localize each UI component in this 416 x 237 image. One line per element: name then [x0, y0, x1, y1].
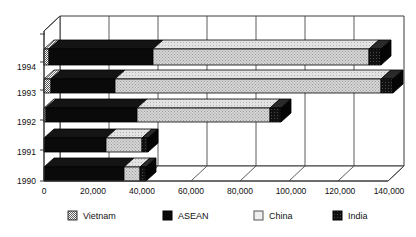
- bar-1993-asean-top: [51, 70, 125, 79]
- bar-1992-asean-top: [46, 99, 147, 108]
- legend-item-china[interactable]: China: [254, 211, 293, 221]
- ytick-1990: 1990: [17, 176, 36, 186]
- legend-label-asean: ASEAN: [178, 211, 209, 221]
- bar-1990-asean-top: [44, 158, 134, 167]
- chart-legend: Vietnam ASEAN China India: [68, 211, 368, 221]
- bar-1994-china-front: [153, 49, 369, 65]
- bar-1993-china-front: [115, 79, 381, 93]
- xtick-80000: 80,000: [227, 186, 253, 196]
- bar-1994-china-top: [153, 40, 379, 49]
- horizontal-stacked-3d-bar-chart: 1994 1993 1992 1991 1990 0 20,000 40,000…: [0, 0, 416, 237]
- legend-label-vietnam: Vietnam: [83, 211, 116, 221]
- xtick-120000: 120,000: [325, 186, 356, 196]
- bar-group-1991: [44, 129, 158, 152]
- bar-1991-china-front: [106, 138, 142, 152]
- bar-1993-china-top: [115, 70, 391, 79]
- bar-1992-china-top: [137, 99, 280, 108]
- bar-1990-china-front: [124, 167, 140, 181]
- bar-1990-asean-front: [44, 167, 124, 181]
- legend-label-china: China: [269, 211, 293, 221]
- asean-swatch: [163, 211, 172, 220]
- ytick-1994: 1994: [17, 62, 36, 72]
- vietnam-swatch: [68, 211, 77, 220]
- legend-item-vietnam[interactable]: Vietnam: [68, 211, 116, 221]
- bar-1992-india-front: [270, 108, 281, 122]
- bar-1991-asean-top: [44, 129, 116, 138]
- ytick-1992: 1992: [17, 117, 36, 127]
- bar-group-1993: [44, 70, 403, 93]
- xtick-20000: 20,000: [80, 186, 106, 196]
- bar-1991-asean-front: [44, 138, 106, 152]
- india-swatch: [333, 211, 342, 220]
- xtick-0: 0: [42, 186, 47, 196]
- bar-1993-vietnam-front: [44, 79, 51, 93]
- ytick-1991: 1991: [17, 147, 36, 157]
- xtick-40000: 40,000: [129, 186, 155, 196]
- bar-1994-asean-top: [49, 40, 163, 49]
- bar-1992-china-front: [137, 108, 270, 122]
- legend-label-india: India: [348, 211, 368, 221]
- ytick-1993: 1993: [17, 88, 36, 98]
- bar-1993-india-front: [381, 79, 393, 93]
- bar-1994-vietnam-front: [44, 49, 49, 65]
- xtick-100000: 100,000: [276, 186, 307, 196]
- xtick-60000: 60,000: [178, 186, 204, 196]
- legend-item-india[interactable]: India: [333, 211, 368, 221]
- xtick-140000: 140,000: [374, 186, 405, 196]
- bar-group-1992: [44, 99, 291, 122]
- bar-1994-asean-front: [49, 49, 153, 65]
- y-axis-labels: 1994 1993 1992 1991 1990: [17, 62, 36, 186]
- bar-1990-india-front: [140, 167, 146, 181]
- bar-1992-asean-front: [46, 108, 137, 122]
- bar-group-1994: [44, 40, 391, 65]
- china-swatch: [254, 211, 263, 220]
- bar-1991-india-front: [142, 138, 148, 152]
- x-axis-labels: 0 20,000 40,000 60,000 80,000 100,000 12…: [42, 186, 405, 196]
- legend-item-asean[interactable]: ASEAN: [163, 211, 209, 221]
- bar-group-1990: [44, 158, 156, 181]
- chart-container: 1994 1993 1992 1991 1990 0 20,000 40,000…: [0, 0, 416, 237]
- bar-1994-india-front: [369, 49, 381, 65]
- bar-1993-asean-front: [51, 79, 115, 93]
